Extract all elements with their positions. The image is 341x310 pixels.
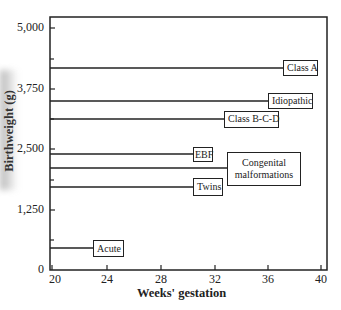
x-axis-label: Weeks' gestation (0, 286, 341, 301)
x-tick-24: 24 (92, 272, 122, 287)
x-tick-28: 28 (146, 272, 176, 287)
label-twins: Twins (193, 178, 223, 196)
label-ebf: EBF (193, 147, 213, 162)
y-tick-3750: 3,750 (2, 81, 44, 96)
y-tick-1250: 1,250 (2, 202, 44, 217)
label-class-bcd: Class B-C-D (224, 111, 279, 128)
label-congenital: Congenital malformations (227, 152, 301, 186)
y-tick-2500: 2,500 (2, 141, 44, 156)
plot-frame (50, 17, 327, 270)
label-congenital-line1: Congenital (231, 157, 297, 169)
label-idiopathic: Idiopathic (268, 93, 313, 109)
label-acute: Acute (93, 240, 124, 257)
x-tick-36: 36 (253, 272, 283, 287)
label-class-a: Class A (283, 60, 318, 76)
y-tick-5000: 5,000 (2, 20, 44, 35)
x-tick-20: 20 (40, 272, 70, 287)
label-congenital-line2: malformations (231, 169, 297, 181)
x-tick-40: 40 (306, 272, 336, 287)
y-tick-0: 0 (2, 262, 44, 277)
x-tick-32: 32 (200, 272, 230, 287)
